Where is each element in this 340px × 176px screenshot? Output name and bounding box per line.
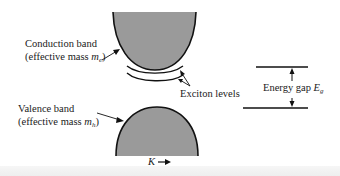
page-bottom-strip [0, 166, 340, 176]
energy-gap-text: Energy gap [263, 82, 314, 93]
valence-mass-suffix: ) [95, 116, 99, 127]
valence-band-shape [116, 107, 198, 156]
conduction-band-title: Conduction band [25, 38, 97, 49]
conduction-band-label: Conduction band (effective mass me) [25, 37, 105, 67]
conduction-mass-symbol: m [91, 51, 99, 62]
energy-gap-subscript: g [320, 87, 324, 95]
valence-mass-symbol: m [84, 116, 92, 127]
conduction-mass-suffix: ) [102, 51, 106, 62]
conduction-mass-prefix: (effective mass [25, 51, 91, 62]
exciton-levels-text: Exciton levels [180, 88, 240, 99]
energy-gap-label: Energy gap Eg [262, 81, 324, 98]
exciton-levels-label: Exciton levels [180, 87, 240, 100]
valence-pointer [97, 113, 120, 120]
conduction-band-shape [113, 12, 196, 70]
valence-band-label: Valence band (effective mass mh) [18, 102, 99, 132]
exciton-level-2 [127, 73, 183, 81]
valence-band-title: Valence band [18, 103, 74, 114]
valence-mass-prefix: (effective mass [18, 116, 84, 127]
